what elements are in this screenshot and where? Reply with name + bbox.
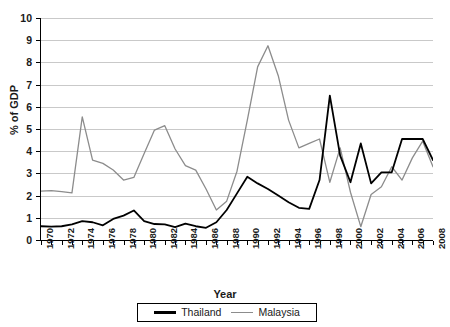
legend-swatch-malaysia <box>231 312 253 314</box>
y-axis-tick-label: 5 <box>0 124 32 135</box>
x-axis-tick <box>165 241 166 245</box>
line-chart: % of GDP 012345678910 197019721974197619… <box>0 0 450 327</box>
x-axis-tick <box>268 241 269 245</box>
x-axis-tick <box>371 241 372 245</box>
y-axis-tick-label: 3 <box>0 168 32 179</box>
x-axis-tick <box>82 241 83 245</box>
x-axis-tick <box>62 241 63 245</box>
x-axis-tick <box>206 241 207 245</box>
x-axis-tick <box>309 241 310 245</box>
legend-item-malaysia: Malaysia <box>231 307 299 318</box>
x-axis-tick <box>330 241 331 245</box>
chart-legend: Thailand Malaysia <box>137 303 317 322</box>
legend-item-thailand: Thailand <box>154 307 221 318</box>
y-axis-tick-label: 0 <box>0 235 32 246</box>
plot-area <box>41 18 433 240</box>
x-axis-tick <box>247 241 248 245</box>
x-axis-tick <box>103 241 104 245</box>
x-axis-tick <box>124 241 125 245</box>
x-axis-tick <box>350 241 351 245</box>
x-axis-tick <box>144 241 145 245</box>
x-axis-tick <box>185 241 186 245</box>
y-axis-tick-label: 4 <box>0 146 32 157</box>
x-axis-tick <box>227 241 228 245</box>
y-axis-tick-label: 7 <box>0 80 32 91</box>
x-axis-tick-label: 2008 <box>437 228 447 249</box>
series-line-malaysia <box>41 46 433 227</box>
legend-label-thailand: Thailand <box>181 307 221 318</box>
y-axis-tick-label: 2 <box>0 191 32 202</box>
legend-label-malaysia: Malaysia <box>258 307 299 318</box>
y-axis-tick-label: 10 <box>0 13 32 24</box>
x-axis-tick <box>412 241 413 245</box>
x-axis-tick <box>392 241 393 245</box>
legend-swatch-thailand <box>154 311 176 314</box>
y-axis-tick-label: 6 <box>0 102 32 113</box>
x-axis-tick <box>41 241 42 245</box>
y-axis-tick-label: 9 <box>0 35 32 46</box>
x-axis-title: Year <box>0 288 450 300</box>
x-axis-tick <box>433 241 434 245</box>
y-axis-tick-label: 8 <box>0 57 32 68</box>
y-axis-tick-label: 1 <box>0 213 32 224</box>
x-axis-tick <box>289 241 290 245</box>
series-lines <box>41 18 433 240</box>
